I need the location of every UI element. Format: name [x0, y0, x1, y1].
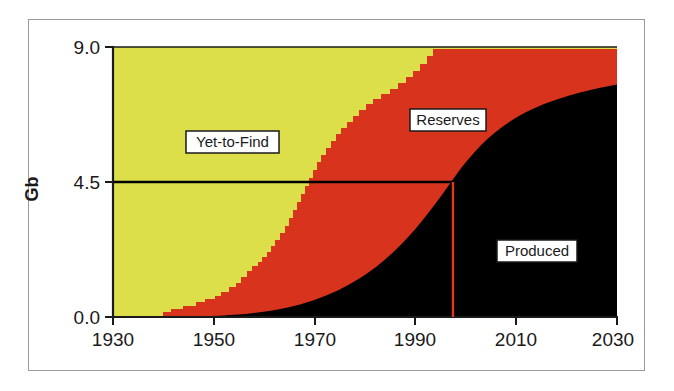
x-tick-label-5: 2030	[592, 329, 634, 350]
y-axis-ticks: 0.0 4.5 9.0	[74, 37, 113, 328]
series-label-produced: Produced	[497, 240, 577, 262]
figure-canvas: 0.0 4.5 9.0 Gb 1930 1950 1970 1990 2010 …	[0, 0, 674, 391]
y-axis-title: Gb	[22, 176, 42, 201]
x-tick-label-4: 2010	[495, 329, 537, 350]
series-label-yet-to-find: Yet-to-Find	[186, 131, 279, 153]
y-tick-label-2: 9.0	[74, 37, 100, 58]
x-axis-ticks: 1930 1950 1970 1990 2010 2030	[92, 317, 634, 350]
x-tick-label-1: 1950	[193, 329, 235, 350]
x-tick-label-3: 1990	[394, 329, 436, 350]
series-label-reserves-text: Reserves	[416, 111, 479, 128]
x-tick-label-0: 1930	[92, 329, 134, 350]
series-label-produced-text: Produced	[505, 242, 569, 259]
y-tick-label-1: 4.5	[74, 172, 100, 193]
x-tick-label-2: 1970	[294, 329, 336, 350]
series-label-yet-to-find-text: Yet-to-Find	[196, 133, 269, 150]
series-label-reserves: Reserves	[410, 109, 486, 131]
y-tick-label-0: 0.0	[74, 307, 100, 328]
area-chart: 0.0 4.5 9.0 Gb 1930 1950 1970 1990 2010 …	[0, 0, 674, 391]
